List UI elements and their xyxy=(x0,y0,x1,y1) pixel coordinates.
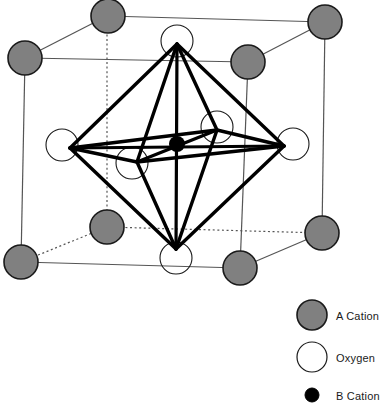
perovskite-diagram-figure: A Cation Oxygen B Cation xyxy=(0,0,380,413)
a-cation-front-bottom-right xyxy=(223,251,257,285)
legend-markers xyxy=(297,300,327,402)
b-cation-group xyxy=(169,136,185,152)
legend-marker-oxygen xyxy=(297,342,327,372)
a-cation-front-top-right xyxy=(231,45,265,79)
cube-hidden-edge-back_bottom_left-to-back_bottom_right xyxy=(107,227,322,233)
a-cation-back-top-left xyxy=(91,0,125,33)
legend-label-a-cation: A Cation xyxy=(336,311,379,322)
legend-marker-a_cation xyxy=(297,300,327,330)
a-cation-front-bottom-left xyxy=(4,245,38,279)
octahedron-edge-apex_top-to-eq_back xyxy=(177,44,217,130)
cube-edge-front_bottom_left-to-front_bottom_right xyxy=(21,262,240,268)
cube-edge-back_top_right-to-back_bottom_right xyxy=(322,22,325,233)
a-cation-front-top-left xyxy=(8,41,42,75)
legend-label-b-cation: B Cation xyxy=(336,391,380,402)
legend-marker-b_cation xyxy=(305,388,319,402)
cube-edge-front_top_right-to-front_bottom_right xyxy=(240,62,248,268)
crystal-structure-svg xyxy=(0,0,380,413)
a-cation-back-bottom-right xyxy=(305,216,339,250)
b-cation-center xyxy=(169,136,185,152)
cube-edge-front_top_left-to-front_bottom_left xyxy=(21,58,25,262)
octahedron-edge-apex_bottom-to-eq_front xyxy=(137,162,176,249)
a-cation-back-bottom-left xyxy=(90,210,124,244)
cube-edge-back_top_left-to-back_top_right xyxy=(107,16,325,22)
cube-edge-front_top_left-to-front_top_right xyxy=(25,58,248,62)
legend-label-oxygen: Oxygen xyxy=(336,353,375,364)
a-cation-back-top-right xyxy=(308,5,342,39)
